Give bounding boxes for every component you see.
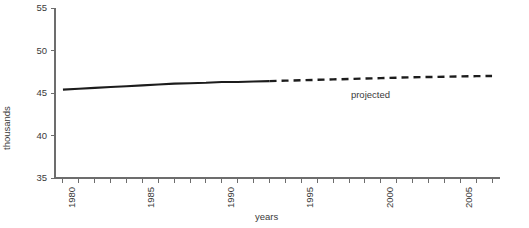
data-series (63, 76, 492, 90)
x-tick-label-2000: 2000 (385, 187, 395, 208)
x-tick-label-1990: 1990 (226, 187, 236, 208)
series-actual (63, 81, 270, 90)
x-tick-label-1980: 1980 (67, 187, 77, 208)
chart-container: 3540455055 198019851990199520002005 thou… (0, 0, 529, 228)
projected-annotation: projected (351, 90, 390, 100)
y-tick-label-40: 40 (21, 131, 47, 141)
tick-marks (51, 8, 492, 183)
x-tick-label-2005: 2005 (464, 187, 474, 208)
y-tick-label-50: 50 (21, 46, 47, 56)
y-tick-label-35: 35 (21, 173, 47, 183)
axes (55, 8, 500, 178)
y-axis-title: thousands (2, 106, 12, 150)
y-tick-label-45: 45 (21, 88, 47, 98)
x-tick-label-1995: 1995 (305, 187, 315, 208)
x-tick-label-1985: 1985 (146, 187, 156, 208)
plot-area (0, 0, 529, 228)
y-tick-label-55: 55 (21, 3, 47, 13)
x-axis-title: years (255, 212, 278, 222)
series-projected (270, 76, 493, 81)
